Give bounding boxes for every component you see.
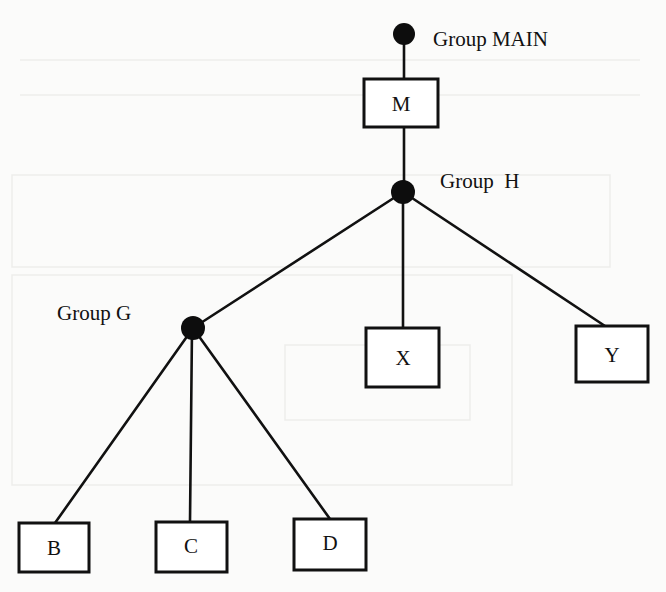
- group-g-junction: [181, 316, 205, 340]
- node-x: X: [366, 328, 439, 387]
- node-y: Y: [576, 326, 648, 382]
- node-x-label: X: [395, 346, 410, 370]
- node-c-label: C: [184, 534, 198, 558]
- group-h-label: Group H: [440, 169, 519, 193]
- junctions: [181, 23, 415, 340]
- group-main-label: Group MAIN: [433, 27, 548, 51]
- node-m-label: M: [392, 92, 411, 116]
- edge-g-to-b: [55, 328, 193, 523]
- edge-h-to-y: [403, 192, 605, 326]
- node-y-label: Y: [604, 343, 619, 367]
- edges: [55, 40, 605, 523]
- edge-g-to-c: [190, 328, 192, 522]
- group-main-junction: [393, 23, 415, 45]
- edge-g-to-d: [193, 328, 330, 519]
- background-show-through: [12, 60, 640, 485]
- node-d: D: [294, 519, 366, 570]
- edge-h-to-g: [193, 192, 403, 328]
- node-b-label: B: [47, 536, 61, 560]
- group-g-label: Group G: [57, 301, 131, 325]
- node-c: C: [156, 522, 227, 572]
- group-h-junction: [391, 180, 415, 204]
- tree-diagram: Group MAIN Group H Group G M X Y B C D: [0, 0, 666, 592]
- node-m: M: [364, 79, 438, 127]
- node-d-label: D: [322, 531, 337, 555]
- node-b: B: [19, 523, 89, 572]
